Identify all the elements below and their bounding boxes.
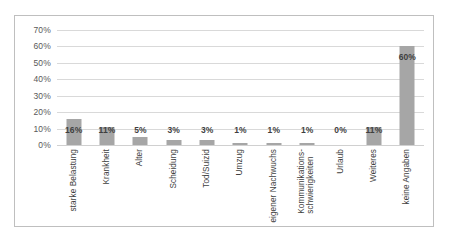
bar [200,140,215,145]
bar-value-label: 11% [99,125,116,135]
bar-slot: 60% [391,30,424,145]
x-axis-tick: Urlaub [324,147,357,225]
x-axis-tick-label-line: keine Angaben [402,149,411,204]
x-axis-tick-label-line: Urlaub [335,149,344,174]
y-axis-tick-label: 30% [33,91,51,101]
y-axis-tick-label: 0% [38,140,51,150]
x-axis-tick: Alter [124,147,157,225]
x-axis-tick-label: eigener Nachwuchs [269,149,278,223]
bar [300,143,315,145]
bar-value-label: 1% [234,125,247,135]
bar [133,137,148,145]
x-axis-tick-label: Umzug [236,149,245,175]
x-axis-tick-label: Scheidung [169,149,178,189]
chart-frame: 0%10%20%30%40%50%60%70% 16%11%5%3%3%1%1%… [14,15,434,227]
x-axis-tick-label: starke Belastung [69,149,78,212]
x-axis-tick-label-line: schwierigkeiten [307,149,316,214]
x-axis-tick-label-line: Weiteres [369,149,378,182]
x-axis-tick-label-line: Kommunikations- [297,149,306,214]
y-axis: 0%10%20%30%40%50%60%70% [15,30,55,145]
bar-slot: 11% [90,30,123,145]
bar-value-label: 3% [168,125,181,135]
y-axis-tick-label: 10% [33,124,51,134]
x-axis-tick: starke Belastung [57,147,90,225]
bar-slot: 3% [157,30,190,145]
x-axis-tick: Kommunikations-schwierigkeiten [291,147,324,225]
x-axis-tick-label: Urlaub [336,149,345,174]
x-axis-tick-label: keine Angaben [403,149,412,204]
y-axis-tick-label: 50% [33,58,51,68]
x-axis-tick-label: Alter [136,149,145,166]
bar-value-label: 11% [366,125,383,135]
bar-value-label: 5% [134,125,147,135]
x-axis-tick-label: Kommunikations-schwierigkeiten [298,149,316,214]
x-axis-tick: Scheidung [157,147,190,225]
y-axis-tick-label: 40% [33,74,51,84]
bar-slot: 1% [291,30,324,145]
bar-series: 16%11%5%3%3%1%1%1%0%11%60% [57,30,424,145]
x-axis-tick-label-line: Umzug [235,149,244,175]
bar-value-label: 60% [399,52,416,62]
x-axis-tick-label-line: eigener Nachwuchs [268,149,277,223]
x-axis-tick: Umzug [224,147,257,225]
axis-baseline [57,145,424,146]
x-axis-tick-label-line: starke Belastung [68,149,77,212]
x-axis-tick-label: Weiteres [370,149,379,182]
x-axis-tick-label-line: Alter [135,149,144,166]
x-axis-tick-label: Tod/Suizid [203,149,212,188]
y-axis-tick-label: 70% [33,25,51,35]
x-axis-tick-label-line: Krankheit [102,149,111,185]
bar-slot: 1% [257,30,290,145]
x-axis-tick: Krankheit [90,147,123,225]
bar-value-label: 3% [201,125,214,135]
x-axis-tick: eigener Nachwuchs [257,147,290,225]
x-axis: starke BelastungKrankheitAlterScheidungT… [57,147,424,225]
bar-value-label: 1% [268,125,281,135]
x-axis-tick: Tod/Suizid [190,147,223,225]
y-axis-tick-label: 60% [33,41,51,51]
bar-slot: 5% [124,30,157,145]
bar-slot: 11% [357,30,390,145]
y-axis-tick-label: 20% [33,107,51,117]
bar [266,143,281,145]
bar-slot: 0% [324,30,357,145]
x-axis-tick-label-line: Scheidung [168,149,177,189]
bar-value-label: 1% [301,125,314,135]
x-axis-tick-label: Krankheit [103,149,112,185]
bar [166,140,181,145]
bar-slot: 16% [57,30,90,145]
bar [233,143,248,145]
bar-slot: 1% [224,30,257,145]
bar-value-label: 0% [334,125,347,135]
x-axis-tick: Weiteres [357,147,390,225]
x-axis-tick: keine Angaben [391,147,424,225]
x-axis-tick-label-line: Tod/Suizid [202,149,211,188]
bar-slot: 3% [190,30,223,145]
bar-value-label: 16% [65,125,82,135]
